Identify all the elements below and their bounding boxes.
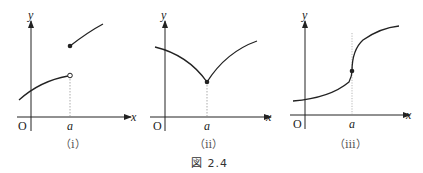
panel-caption: （ⅰ） [60, 138, 86, 150]
origin-label: O [293, 117, 302, 131]
cusp-point [205, 80, 210, 85]
open-endpoint [68, 73, 73, 78]
lower-branch-curve [19, 76, 68, 100]
y-axis-label: y [27, 8, 34, 22]
tick-label-a: a [349, 117, 355, 131]
function-curve [293, 26, 399, 101]
x-axis-label: x [265, 110, 272, 124]
origin-label: O [153, 119, 162, 133]
inflection-point [350, 69, 355, 74]
origin-label: O [18, 119, 27, 133]
figure-canvas: y x O a （ⅰ） y x O a （ⅱ） y x O a （ⅲ） 図 2.… [0, 0, 423, 173]
panel-caption: （ⅲ） [334, 138, 367, 150]
panel-ii: y x O a （ⅱ） [150, 8, 272, 150]
right-branch-curve [207, 41, 257, 82]
left-branch-curve [155, 47, 207, 82]
panel-i: y x O a （ⅰ） [17, 8, 137, 150]
tick-label-a: a [204, 119, 210, 133]
figure-caption: 図 2.4 [191, 157, 228, 170]
y-axis-label: y [160, 8, 167, 22]
x-axis-label: x [405, 108, 412, 122]
closed-endpoint [68, 44, 73, 49]
y-axis-label: y [301, 8, 308, 22]
x-axis-label: x [130, 110, 137, 124]
panel-iii: y x O a （ⅲ） [290, 8, 412, 150]
tick-label-a: a [67, 119, 73, 133]
panel-caption: （ⅱ） [194, 138, 223, 150]
upper-branch-curve [70, 24, 103, 46]
